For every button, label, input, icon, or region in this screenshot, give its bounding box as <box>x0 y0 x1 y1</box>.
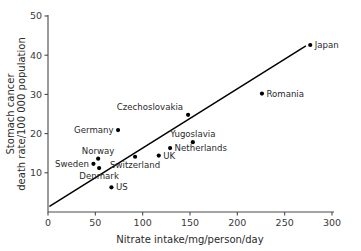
scatter-plot-figure: 1020304050050100150200250300 SwedenNorwa… <box>0 0 361 251</box>
plot-canvas: 1020304050050100150200250300 SwedenNorwa… <box>0 0 361 251</box>
y-tick-label: 10 <box>30 167 42 178</box>
data-point-denmark <box>97 166 101 170</box>
axis-lines <box>48 15 334 212</box>
y-axis-title-line1: Stomach cancer <box>5 73 16 155</box>
data-point-norway <box>96 157 100 161</box>
point-label-norway: Norway <box>82 146 115 156</box>
point-label-czechoslovakia: Czechoslovakia <box>117 102 183 112</box>
x-tick-label: 200 <box>228 217 246 228</box>
y-tick-label: 20 <box>30 128 42 139</box>
x-tick-label: 100 <box>134 217 152 228</box>
data-point-sweden <box>91 162 95 166</box>
point-label-us: US <box>116 182 128 192</box>
y-tick-label: 30 <box>30 89 42 100</box>
point-label-netherlands: Netherlands <box>175 143 228 153</box>
x-tick-label: 50 <box>89 217 101 228</box>
axes <box>48 15 334 212</box>
point-label-denmark: Denmark <box>79 171 119 181</box>
x-tick-label: 0 <box>45 217 51 228</box>
data-point-switzerland <box>133 155 137 159</box>
data-point-germany <box>116 128 120 132</box>
point-label-switzerland: Switzerland <box>110 160 160 170</box>
point-label-germany: Germany <box>74 125 114 135</box>
x-tick-label: 150 <box>181 217 199 228</box>
data-point-uk <box>157 153 161 157</box>
point-label-japan: Japan <box>314 40 339 50</box>
point-label-yugoslavia: Yugoslavia <box>169 129 215 139</box>
point-label-romania: Romania <box>266 89 304 99</box>
data-point-us <box>109 185 113 189</box>
x-axis-title: Nitrate intake/mg/person/day <box>116 234 263 245</box>
data-point-czechoslovakia <box>186 113 190 117</box>
y-axis-title-line2: death rate/100 000 population <box>16 37 27 191</box>
point-label-sweden: Sweden <box>55 159 89 169</box>
tick-labels: 1020304050050100150200250300 <box>30 10 341 228</box>
x-tick-label: 250 <box>276 217 294 228</box>
data-point-japan <box>308 43 312 47</box>
y-tick-label: 50 <box>30 10 42 21</box>
y-tick-label: 40 <box>30 50 42 61</box>
data-point-romania <box>260 92 264 96</box>
axis-titles: Nitrate intake/mg/person/dayStomach canc… <box>5 37 264 245</box>
x-tick-label: 300 <box>323 217 341 228</box>
